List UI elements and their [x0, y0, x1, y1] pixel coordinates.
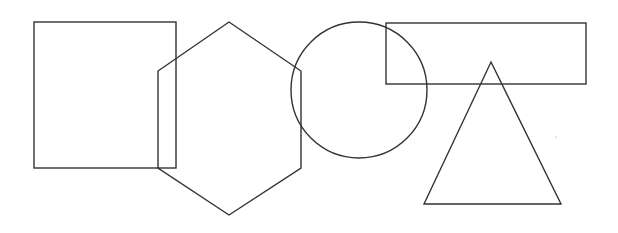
stray-dot — [555, 136, 556, 137]
circle-shape — [291, 22, 427, 158]
hexagon-shape — [158, 22, 301, 215]
shapes-canvas — [0, 0, 618, 233]
square-shape — [34, 22, 176, 168]
